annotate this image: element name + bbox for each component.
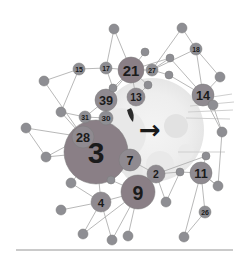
graph-node[interactable] — [21, 123, 31, 133]
graph-node[interactable] — [144, 81, 152, 89]
graph-node[interactable] — [78, 229, 88, 239]
node-circle[interactable] — [199, 206, 211, 218]
graph-node[interactable]: 7 — [119, 149, 141, 171]
graph-node[interactable] — [141, 48, 149, 56]
node-circle[interactable] — [56, 205, 66, 215]
node-circle[interactable] — [95, 89, 117, 111]
graph-node[interactable]: 28 — [72, 126, 94, 148]
node-circle[interactable] — [144, 81, 152, 89]
node-circle[interactable] — [109, 84, 117, 92]
graph-node[interactable]: 15 — [73, 63, 85, 75]
graph-node[interactable]: 17 — [100, 62, 112, 74]
center-arrow-icon: → — [139, 117, 161, 143]
graph-node[interactable] — [208, 100, 218, 110]
graph-node[interactable] — [66, 178, 76, 188]
graph-edge — [218, 132, 222, 186]
node-circle[interactable] — [179, 232, 189, 242]
node-circle[interactable] — [147, 165, 165, 183]
node-circle[interactable] — [146, 64, 158, 76]
graph-node[interactable]: 27 — [146, 64, 158, 76]
node-circle[interactable] — [127, 88, 145, 106]
graph-node[interactable] — [41, 152, 51, 162]
node-circle[interactable] — [190, 43, 202, 55]
graph-node[interactable] — [165, 71, 173, 79]
graph-node[interactable] — [161, 197, 171, 207]
graph-edge — [61, 69, 79, 112]
node-circle[interactable] — [91, 192, 111, 212]
graph-canvas[interactable]: 3921392814117413230311517182627 — [0, 0, 249, 261]
graph-node[interactable]: 3 — [64, 120, 128, 184]
node-circle[interactable] — [99, 111, 113, 125]
graph-node[interactable]: 26 — [199, 206, 211, 218]
node-circle[interactable] — [202, 152, 210, 160]
graph-node[interactable] — [177, 23, 187, 33]
node-circle[interactable] — [215, 72, 225, 82]
node-circle[interactable] — [118, 57, 144, 83]
graph-node[interactable] — [202, 152, 210, 160]
node-circle[interactable] — [72, 126, 94, 148]
graph-node[interactable]: 13 — [127, 88, 145, 106]
node-circle[interactable] — [177, 23, 187, 33]
graph-node[interactable] — [56, 205, 66, 215]
node-circle[interactable] — [119, 149, 141, 171]
graph-node[interactable]: 11 — [190, 162, 212, 184]
graph-edge — [152, 49, 196, 70]
node-circle[interactable] — [208, 100, 218, 110]
graph-node[interactable]: 2 — [147, 165, 165, 183]
node-circle[interactable] — [217, 127, 227, 137]
network-graph-figure: 3921392814117413230311517182627 → — [0, 0, 249, 261]
node-circle[interactable] — [56, 107, 66, 117]
node-circle[interactable] — [107, 176, 115, 184]
graph-node[interactable] — [123, 231, 133, 241]
graph-node[interactable]: 31 — [79, 111, 91, 123]
node-circle[interactable] — [165, 71, 173, 79]
node-circle[interactable] — [39, 76, 49, 86]
graph-node[interactable] — [109, 24, 119, 34]
graph-node[interactable]: 18 — [190, 43, 202, 55]
graph-node[interactable] — [109, 84, 117, 92]
node-circle[interactable] — [161, 197, 171, 207]
graph-node[interactable]: 4 — [91, 192, 111, 212]
graph-node[interactable] — [179, 232, 189, 242]
node-circle[interactable] — [41, 152, 51, 162]
node-circle[interactable] — [176, 168, 184, 176]
node-circle[interactable] — [190, 162, 212, 184]
graph-node[interactable] — [107, 235, 117, 245]
graph-node[interactable] — [215, 72, 225, 82]
node-circle[interactable] — [213, 181, 223, 191]
graph-node[interactable] — [176, 168, 184, 176]
node-circle[interactable] — [166, 54, 174, 62]
graph-node[interactable] — [166, 54, 174, 62]
graph-node[interactable]: 30 — [99, 111, 113, 125]
node-circle[interactable] — [66, 178, 76, 188]
node-circle[interactable] — [79, 111, 91, 123]
graph-edge — [152, 28, 182, 70]
graph-edge — [26, 128, 46, 157]
node-circle[interactable] — [21, 123, 31, 133]
graph-node[interactable] — [107, 176, 115, 184]
node-circle[interactable] — [123, 231, 133, 241]
node-circle[interactable] — [64, 120, 128, 184]
graph-node[interactable] — [217, 127, 227, 137]
node-circle[interactable] — [107, 235, 117, 245]
node-circle[interactable] — [141, 48, 149, 56]
node-circle[interactable] — [100, 62, 112, 74]
graph-node[interactable] — [213, 181, 223, 191]
node-circle[interactable] — [73, 63, 85, 75]
node-circle[interactable] — [109, 24, 119, 34]
graph-node[interactable] — [56, 107, 66, 117]
graph-node[interactable]: 39 — [95, 89, 117, 111]
node-circle[interactable] — [78, 229, 88, 239]
graph-node[interactable] — [39, 76, 49, 86]
graph-node[interactable]: 21 — [118, 57, 144, 83]
